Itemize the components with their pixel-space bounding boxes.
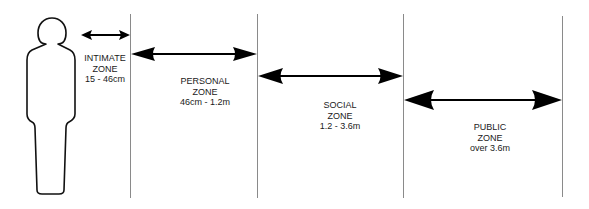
zone-range: 15 - 46cm (80, 74, 130, 85)
public-distance-arrow-icon (404, 90, 562, 110)
intimate-distance-arrow-icon (81, 30, 130, 40)
personal-distance-arrow-icon (131, 47, 257, 61)
zone-word: ZONE (150, 87, 260, 98)
zone-name: PERSONAL (150, 76, 260, 87)
zone-word: ZONE (290, 111, 390, 122)
zone-range: 46cm - 1.2m (150, 97, 260, 108)
social-distance-arrow-icon (258, 68, 403, 84)
zone-range: 1.2 - 3.6m (290, 121, 390, 132)
zone-name: INTIMATE (80, 53, 130, 64)
zone-range: over 3.6m (435, 143, 545, 154)
zone-label-social: SOCIAL ZONE 1.2 - 3.6m (290, 100, 390, 132)
zone-name: SOCIAL (290, 100, 390, 111)
person-silhouette-icon (27, 18, 75, 194)
zone-label-intimate: INTIMATE ZONE 15 - 46cm (80, 53, 130, 85)
zone-word: ZONE (435, 133, 545, 144)
zone-label-personal: PERSONAL ZONE 46cm - 1.2m (150, 76, 260, 108)
zone-word: ZONE (80, 64, 130, 75)
zone-name: PUBLIC (435, 122, 545, 133)
zone-label-public: PUBLIC ZONE over 3.6m (435, 122, 545, 154)
